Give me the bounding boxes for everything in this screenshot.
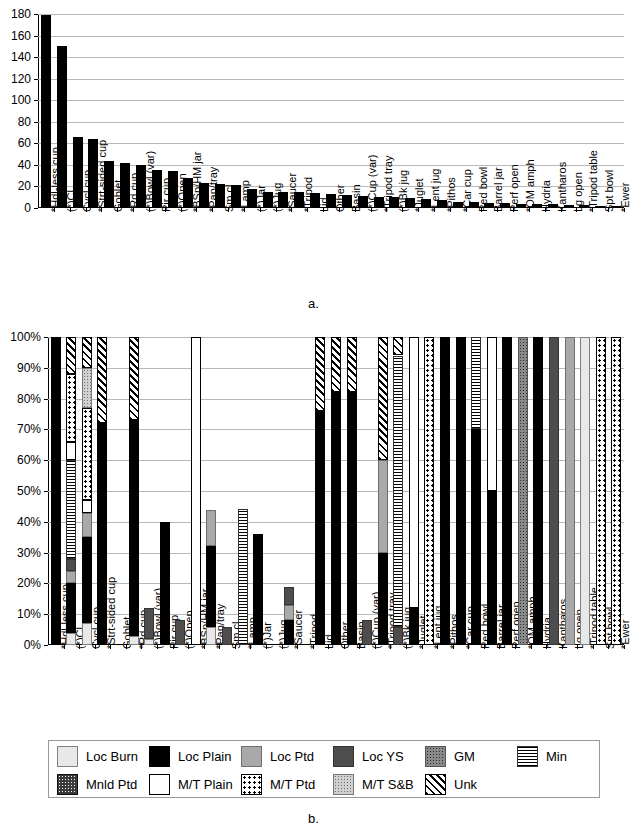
panel-a-gridline bbox=[38, 14, 624, 15]
panel-b-segment-locplain bbox=[129, 420, 139, 636]
legend-item: M/T Plain bbox=[149, 771, 233, 797]
panel-a-x-label: Lg open bbox=[573, 172, 584, 212]
panel-b-segment-locburn bbox=[129, 636, 139, 645]
panel-b-segment-locys bbox=[393, 627, 403, 645]
panel-b-segment-locptd bbox=[66, 571, 76, 583]
panel-b-stacked-bar bbox=[533, 337, 543, 645]
panel-a-tick-mark bbox=[34, 100, 38, 101]
panel-b-segment-locburn bbox=[144, 639, 154, 645]
panel-b-stacked-bar bbox=[331, 337, 341, 645]
panel-b-segment-locburn bbox=[580, 337, 590, 645]
panel-b-segment-locplain bbox=[97, 423, 107, 645]
panel-a-x-label: (*)Bk jug bbox=[398, 170, 409, 212]
panel-b-stacked-bar bbox=[97, 337, 107, 645]
panel-b-segment-locburn bbox=[206, 627, 216, 645]
panel-b-x-tick-mark bbox=[437, 645, 438, 649]
legend-item: M/T Ptd bbox=[241, 771, 315, 797]
panel-a-x-label: Basin bbox=[351, 184, 362, 212]
panel-a-x-label: (*)Jar bbox=[256, 185, 267, 212]
panel-b-segment-locplain bbox=[502, 337, 512, 645]
legend: Loc BurnLoc PlainLoc PtdLoc YSGMMin Mnld… bbox=[48, 740, 600, 798]
legend-swatch-mtplain bbox=[149, 774, 170, 795]
panel-b-segment-locplain bbox=[66, 583, 76, 632]
panel-a-x-label: *Hdl-less cup bbox=[50, 147, 61, 212]
panel-b-segment-unk bbox=[331, 337, 341, 392]
panel-b-tick-mark bbox=[44, 491, 48, 492]
panel-b-x-tick-mark bbox=[64, 645, 65, 649]
panel-b-segment-mtptd bbox=[611, 337, 621, 645]
panel-a-x-label: *Pan/tray bbox=[208, 167, 219, 212]
panel-a-tick-mark bbox=[34, 122, 38, 123]
panel-b-stacked-chart: 0%10%20%30%40%50%60%70%80%90%100% *Hdl-l… bbox=[0, 325, 630, 835]
panel-b-segment-mtplain bbox=[66, 442, 76, 460]
panel-b-segment-unk bbox=[82, 337, 92, 368]
panel-b-stacked-bar bbox=[565, 337, 575, 645]
panel-b-segment-locys bbox=[175, 620, 185, 645]
legend-swatch-locys bbox=[333, 746, 354, 767]
panel-b-segment-gm bbox=[518, 337, 528, 645]
panel-b-x-tick-mark bbox=[515, 645, 516, 649]
panel-b-tick-mark bbox=[44, 553, 48, 554]
panel-a-y-tick-label: 140 bbox=[11, 51, 31, 63]
panel-b-x-tick-mark bbox=[608, 645, 609, 649]
panel-b-tick-mark bbox=[44, 614, 48, 615]
panel-b-x-tick-mark bbox=[219, 645, 220, 649]
panel-a-x-label: *Tripod bbox=[303, 177, 314, 212]
panel-b-x-tick-mark bbox=[204, 645, 205, 649]
panel-a-x-label: (*)Cup (var) bbox=[367, 155, 378, 212]
panel-a-y-tick-label: 20 bbox=[18, 180, 31, 192]
legend-label: Loc Burn bbox=[86, 750, 138, 763]
panel-a-x-label: Pir cup bbox=[161, 178, 172, 212]
panel-b-y-tick-label: 0% bbox=[24, 639, 41, 651]
panel-a-x-label: *Rd cup bbox=[129, 173, 140, 212]
panel-b-stacked-bar bbox=[206, 337, 216, 645]
legend-label: Loc Ptd bbox=[270, 750, 314, 763]
panel-a-x-label: Cycl cup bbox=[82, 170, 93, 212]
panel-b-stacked-bar bbox=[284, 337, 294, 645]
panel-a-tick-mark bbox=[34, 14, 38, 15]
panel-b-segment-unk bbox=[378, 337, 388, 460]
panel-b-stacked-bar bbox=[347, 337, 357, 645]
panel-a-tick-mark bbox=[34, 208, 38, 209]
panel-b-stacked-bar bbox=[440, 337, 450, 645]
legend-swatch-mnldptd bbox=[57, 774, 78, 795]
panel-b-x-tick-mark bbox=[188, 645, 189, 649]
legend-swatch-mtptd bbox=[241, 774, 262, 795]
panel-a-x-label: *Saucer bbox=[287, 173, 298, 212]
legend-label: Min bbox=[546, 750, 567, 763]
panel-b-segment-locplain bbox=[82, 537, 92, 623]
panel-a-y-tick-label: 0 bbox=[24, 202, 31, 214]
panel-b-stacked-bar bbox=[66, 337, 76, 645]
panel-a-x-label: (*)Jug bbox=[272, 183, 283, 212]
panel-b-stacked-bar bbox=[160, 337, 170, 645]
panel-b-x-tick-mark bbox=[110, 645, 111, 649]
panel-a-x-label: *Strt-sided cup bbox=[97, 140, 108, 212]
legend-item: GM bbox=[425, 743, 475, 769]
panel-b-x-tick-mark bbox=[328, 645, 329, 649]
legend-label: Loc Plain bbox=[178, 750, 231, 763]
legend-label: Mnld Ptd bbox=[86, 778, 137, 791]
panel-b-stacked-bar bbox=[51, 337, 61, 645]
panel-b-segment-unk bbox=[315, 337, 325, 411]
panel-b-stacked-bar bbox=[175, 337, 185, 645]
panel-b-segment-locplain bbox=[487, 491, 497, 645]
panel-b-x-tick-mark bbox=[531, 645, 532, 649]
panel-a-y-tick-label: 180 bbox=[11, 8, 31, 20]
panel-b-y-tick-label: 40% bbox=[17, 516, 41, 528]
panel-a-x-label: Barrel jar bbox=[493, 167, 504, 212]
legend-label: M/T Plain bbox=[178, 778, 233, 791]
panel-b-stacked-bar bbox=[129, 337, 139, 645]
panel-b-segment-mtptd bbox=[596, 337, 606, 645]
panel-a-x-label: (*)Open bbox=[177, 173, 188, 212]
panel-b-segment-unk bbox=[66, 337, 76, 374]
panel-a-x-label: *BSp/HM jar bbox=[192, 151, 203, 212]
panel-b-x-tick-mark bbox=[624, 645, 625, 649]
panel-b-segment-locys bbox=[362, 620, 372, 645]
panel-b-segment-locplain bbox=[206, 546, 216, 626]
panel-b-segment-locplain bbox=[378, 553, 388, 645]
panel-b-x-tick-mark bbox=[359, 645, 360, 649]
panel-b-segment-locburn bbox=[66, 633, 76, 645]
legend-swatch-locburn bbox=[57, 746, 78, 767]
panel-b-segment-locplain bbox=[160, 522, 170, 645]
panel-b-segment-locplain bbox=[331, 392, 341, 645]
